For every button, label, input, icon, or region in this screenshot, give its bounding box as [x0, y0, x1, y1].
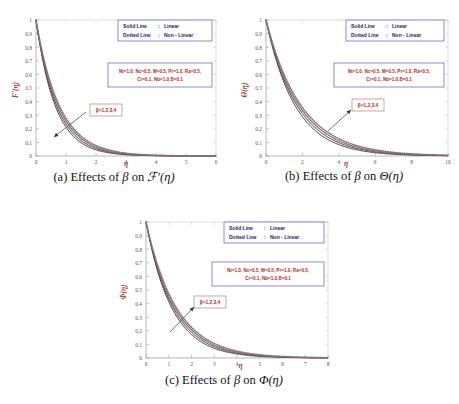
panel-a-plot: 00.10.20.30.40.50.60.70.80.910123456ηF'(… [6, 6, 222, 171]
panel-c-plot: 00.10.20.30.40.50.60.70.80.91012345678ηΦ… [112, 208, 336, 374]
x-tick-label: 7 [304, 361, 307, 367]
x-tick-label: 8 [410, 159, 413, 165]
y-tick-label: 0.5 [25, 85, 32, 91]
panel-a-caption-text: Effects of [70, 170, 119, 184]
y-tick-label: 0.9 [255, 31, 262, 37]
y-axis-title: Φ(η) [119, 284, 128, 300]
x-tick-label: 3 [213, 361, 216, 367]
y-tick-label: 0.9 [25, 31, 32, 37]
y-tick-label: 0.8 [135, 247, 142, 253]
x-tick-label: 1 [167, 361, 170, 367]
legend-meaning: Non - Linear [270, 234, 299, 240]
x-tick-label: 0 [35, 159, 38, 165]
legend-meaning: Linear [164, 23, 179, 29]
panel-a-caption-symbol: β [122, 170, 128, 184]
x-tick-label: 2 [301, 159, 304, 165]
parameter-line-1: Nt=1.0, Nc=0.5, M=0.5, Pr=1.0, Ra=0.5, [348, 69, 430, 74]
legend-style-label: Dotted Line [123, 32, 151, 38]
beta-direction-arrow [328, 110, 351, 131]
x-tick-label: 0 [265, 159, 268, 165]
y-tick-label: 1 [139, 219, 142, 225]
x-tick-label: 6 [215, 159, 218, 165]
y-tick-label: 0.1 [135, 342, 142, 348]
y-tick-label: 0.9 [135, 233, 142, 239]
y-axis-title: Θ(η) [240, 82, 249, 97]
y-axis-title: F'(η) [11, 81, 20, 98]
y-tick-label: 0.6 [135, 274, 142, 280]
x-tick-label: 10 [445, 159, 451, 165]
beta-annotation-label: β=1,2,3,4 [200, 300, 221, 305]
panel-b-plot: 00.10.20.30.40.50.60.70.80.910246810ηΘ(η… [234, 6, 454, 171]
y-tick-label: 1 [29, 17, 32, 23]
legend-style-label: Solid Line [123, 23, 147, 29]
panel-a-caption: (a) Effects of β on ℱ′(η) [6, 169, 222, 185]
parameter-line-2: Cr=0.1, Nb=1.0,B=0.1 [245, 276, 291, 281]
y-tick-label: 0.1 [25, 140, 32, 146]
panel-b-caption-text: Effects of [303, 169, 352, 183]
y-tick-label: 0.3 [25, 113, 32, 119]
x-tick-label: 8 [327, 361, 330, 367]
panel-c-caption-on: on [243, 373, 256, 387]
y-tick-label: 0.3 [135, 315, 142, 321]
legend-meaning: Linear [392, 23, 407, 29]
y-tick-label: 0.2 [135, 328, 142, 334]
panel-b-caption: (b) Effects of β on Θ(η) [234, 169, 454, 184]
panel-b-caption-symbol: β [355, 169, 361, 183]
y-tick-label: 0 [259, 153, 262, 159]
figure-root: 00.10.20.30.40.50.60.70.80.910123456ηF'(… [0, 0, 459, 404]
y-tick-label: 0 [139, 355, 142, 361]
panel-a-caption-on: on [132, 170, 145, 184]
panel-b-caption-prefix: (b) [285, 169, 300, 183]
legend-style-label: Solid Line [229, 225, 253, 231]
parameter-line-2: Cr=0.1, Nb=1.0,B=0.1 [137, 77, 183, 82]
panel-c-caption-text: Effects of [182, 373, 231, 387]
x-axis-title: η [239, 361, 243, 370]
panel-a: 00.10.20.30.40.50.60.70.80.910123456ηF'(… [6, 6, 222, 194]
parameter-box [334, 63, 444, 87]
x-tick-label: 4 [155, 159, 158, 165]
beta-annotation-label: β=1,2,3,4 [96, 108, 117, 113]
x-tick-label: 2 [95, 159, 98, 165]
x-tick-label: 6 [281, 361, 284, 367]
x-tick-label: 6 [374, 159, 377, 165]
x-tick-label: 1 [65, 159, 68, 165]
y-tick-label: 0.7 [135, 260, 142, 266]
panel-c-caption-prefix: (c) [165, 373, 179, 387]
y-tick-label: 0.1 [255, 140, 262, 146]
x-axis-title: η [344, 159, 348, 168]
y-tick-label: 0.7 [255, 58, 262, 64]
x-tick-label: 5 [258, 361, 261, 367]
beta-annotation-label: β=1,2,3,4 [358, 103, 379, 108]
y-tick-label: 0.8 [25, 45, 32, 51]
y-tick-label: 0.5 [135, 287, 142, 293]
y-tick-label: 0.3 [255, 113, 262, 119]
x-axis-title: η [124, 159, 128, 168]
legend-meaning: Linear [270, 225, 285, 231]
y-tick-label: 0.4 [25, 99, 32, 105]
x-tick-label: 4 [337, 159, 340, 165]
y-tick-label: 0.4 [255, 99, 262, 105]
x-tick-label: 5 [185, 159, 188, 165]
parameter-line-1: Nt=1.0, Nc=0.5, M=0.5, Pr=1.0, Ra=0.5, [227, 268, 309, 273]
y-tick-label: 0.2 [255, 126, 262, 132]
panel-b-caption-target: Θ(η) [379, 169, 403, 183]
parameter-line-1: Nt=1.0, Nc=0.5, M=0.5, Pr=1.0, Ra=0.5, [119, 69, 201, 74]
y-tick-label: 0.6 [255, 72, 262, 78]
panel-b-caption-on: on [364, 169, 377, 183]
x-tick-label: 2 [190, 361, 193, 367]
parameter-line-2: Cr=0.1, Nb=1.0,B=0.1 [366, 77, 412, 82]
legend-meaning: Non - Linear [392, 32, 421, 38]
y-tick-label: 0.7 [25, 58, 32, 64]
y-tick-label: 0.6 [25, 72, 32, 78]
y-tick-label: 0.2 [25, 126, 32, 132]
y-tick-label: 0 [29, 153, 32, 159]
legend-style-label: Solid Line [351, 23, 375, 29]
y-tick-label: 0.4 [135, 301, 142, 307]
x-tick-label: 0 [145, 361, 148, 367]
panel-c-caption: (c) Effects of β on Φ(η) [112, 373, 336, 388]
parameter-box [212, 262, 324, 286]
legend-style-label: Dotted Line [351, 32, 379, 38]
parameter-box [108, 63, 212, 87]
panel-c-caption-symbol: β [234, 373, 240, 387]
legend-style-label: Dotted Line [229, 234, 257, 240]
